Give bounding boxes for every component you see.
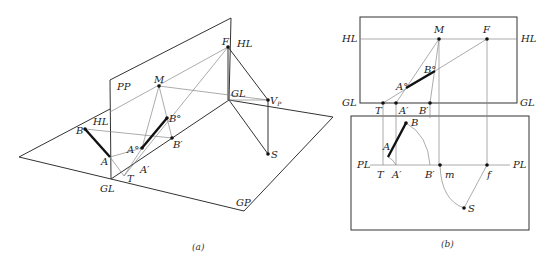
label-t-top: T xyxy=(375,105,383,116)
caption-a: (a) xyxy=(192,242,205,252)
point-m xyxy=(437,37,441,41)
label-t: T xyxy=(127,173,135,184)
label-hl-left: HL xyxy=(92,116,109,127)
label-b-prime-bottom: B′ xyxy=(424,169,435,180)
label-vp: VP xyxy=(270,95,282,107)
gl-to-s-line xyxy=(229,100,268,154)
label-a-prime: A′ xyxy=(139,164,150,175)
label-gp: GP xyxy=(236,197,251,208)
label-hl-right: HL xyxy=(236,38,253,49)
pp-top-edge xyxy=(110,18,231,80)
point-b-prime xyxy=(428,101,432,105)
label-t-bottom: T xyxy=(377,169,385,180)
label-b-deg: B° xyxy=(168,113,181,124)
a-to-t-line xyxy=(110,157,124,176)
pp-left-edge xyxy=(110,80,111,179)
ground-line-gl xyxy=(111,100,229,179)
label-a-deg: A° xyxy=(395,81,408,92)
label-gl-bottom: GL xyxy=(100,183,115,194)
label-m-lower: m xyxy=(445,169,454,180)
f-to-s-line xyxy=(464,165,487,208)
point-b xyxy=(404,121,408,125)
point-a-prime xyxy=(394,101,398,105)
label-b: B xyxy=(75,125,83,136)
point-f xyxy=(485,37,489,41)
label-a: A xyxy=(382,141,390,152)
label-a-prime-bottom: A′ xyxy=(391,169,402,180)
gp-front-left-edge xyxy=(19,157,111,179)
arc-a-to-a-prime xyxy=(388,157,396,165)
m-to-vp-line xyxy=(159,86,268,100)
label-b-deg: B° xyxy=(423,64,436,75)
figure-b: HL HL GL GL PL PL M F A° B° T A′ B′ B A … xyxy=(341,17,537,249)
horizon-line-hl xyxy=(110,47,228,112)
segment-ab xyxy=(388,123,406,157)
label-f: F xyxy=(482,24,491,35)
point-m-lower xyxy=(438,163,442,167)
label-hl-left: HL xyxy=(341,33,358,44)
label-s: S xyxy=(468,203,475,214)
label-pl-right: PL xyxy=(512,159,527,170)
arc-b-to-b-prime xyxy=(406,123,430,165)
label-s: S xyxy=(271,149,278,160)
point-t xyxy=(381,101,385,105)
point-s xyxy=(462,206,466,210)
label-b: B xyxy=(410,117,418,128)
segment-ab xyxy=(85,129,110,157)
gp-right-edge xyxy=(244,117,333,211)
label-gl-right: GL xyxy=(231,88,246,99)
label-m: M xyxy=(153,74,165,85)
label-b-prime-top: B′ xyxy=(418,105,429,116)
point-s xyxy=(266,152,270,156)
label-pp: PP xyxy=(116,81,131,92)
label-m: M xyxy=(433,24,445,35)
label-pl-left: PL xyxy=(356,159,371,170)
b-to-b-prime-line xyxy=(85,129,172,138)
label-a: A xyxy=(100,156,108,167)
point-b xyxy=(83,127,87,131)
label-b-prime: B′ xyxy=(172,139,183,150)
label-f-lower: f xyxy=(486,169,493,180)
caption-b: (b) xyxy=(441,239,454,249)
point-f-lower xyxy=(485,163,489,167)
figure-a: PP HL HL GL GL GP F M B A A° B° B′ A′ T … xyxy=(19,18,333,252)
label-gl-right: GL xyxy=(520,97,535,108)
label-gl-left: GL xyxy=(342,97,357,108)
label-hl-right: HL xyxy=(520,33,537,44)
label-a-prime-top: A′ xyxy=(398,105,409,116)
perspective-diagram: PP HL HL GL GL GP F M B A A° B° B′ A′ T … xyxy=(0,0,547,262)
label-f: F xyxy=(221,36,230,47)
label-a-deg: A° xyxy=(126,144,139,155)
point-a-deg xyxy=(140,146,144,150)
